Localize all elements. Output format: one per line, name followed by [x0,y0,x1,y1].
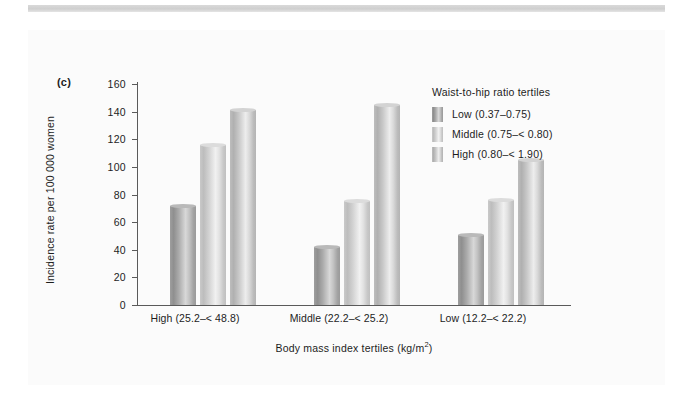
y-tick-140: 140 [86,106,126,118]
y-tick-40: 40 [86,244,126,256]
legend-label-low-whr: Low (0.37–0.75) [452,108,531,120]
y-tick-0: 0 [86,299,126,311]
x-group-label-middle: Middle (22.2–< 25.2) [279,312,399,324]
y-tick-160: 160 [86,78,126,90]
panel-label: (c) [57,76,71,88]
y-axis-tick-labels: 160 140 120 100 80 60 40 20 0 [86,0,126,415]
legend-swatch-low-whr [432,107,443,122]
legend-item-high-whr: High (0.80–< 1.90) [432,145,553,163]
figure-page: (c) 160 140 120 100 80 60 40 20 0 Incide… [0,0,693,415]
legend-label-high-whr: High (0.80–< 1.90) [452,148,543,160]
legend-title: Waist-to-hip ratio tertiles [432,86,553,98]
bar-middle-bmi-high-whr [374,105,400,305]
y-tick-80: 80 [86,189,126,201]
bar-low-bmi-high-whr [518,160,544,305]
legend-swatch-middle-whr [432,127,443,142]
x-axis-line [137,305,571,306]
legend: Waist-to-hip ratio tertiles Low (0.37–0.… [432,86,553,165]
x-group-label-high: High (25.2–< 48.8) [135,312,255,324]
y-tick-mark-0 [132,305,138,306]
bar-high-bmi-middle-whr [200,145,226,305]
bar-low-bmi-low-whr [458,235,484,305]
x-axis-title-base: Body mass index tertiles (kg/m [275,342,424,354]
y-tick-20: 20 [86,271,126,283]
bar-high-bmi-high-whr [230,110,256,305]
legend-swatch-high-whr [432,147,443,162]
bar-middle-bmi-middle-whr [344,201,370,305]
bar-low-bmi-middle-whr [488,200,514,305]
x-group-label-low: Low (12.2–< 22.2) [423,312,543,324]
y-tick-60: 60 [86,216,126,228]
bar-high-bmi-low-whr [170,206,196,306]
y-tick-120: 120 [86,133,126,145]
y-tick-100: 100 [86,161,126,173]
x-axis-title-tail: ) [429,342,433,354]
legend-item-middle-whr: Middle (0.75–< 0.80) [432,125,553,143]
legend-label-middle-whr: Middle (0.75–< 0.80) [452,128,553,140]
x-axis-title: Body mass index tertiles (kg/m2) [138,340,570,354]
bar-chart-figure: (c) 160 140 120 100 80 60 40 20 0 Incide… [0,0,693,415]
y-axis-title: Incidence rate per 100 000 women [44,105,56,295]
legend-item-low-whr: Low (0.37–0.75) [432,105,553,123]
bar-middle-bmi-low-whr [314,247,340,305]
